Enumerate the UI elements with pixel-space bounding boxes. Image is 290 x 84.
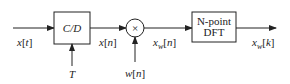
block-diagram: x[t] C/D T x[n] × w[n] xw[n] N-point DFT… <box>0 0 290 84</box>
label-xw-n: xw[n] <box>152 36 176 51</box>
multiply-icon: × <box>132 22 138 34</box>
label-x-n: x[n] <box>98 36 117 48</box>
label-x-t: x[t] <box>16 36 32 48</box>
cd-block-label: C/D <box>63 22 81 34</box>
label-w-n: w[n] <box>125 67 145 79</box>
label-xw-k: xw[k] <box>251 36 274 51</box>
dft-block-label-line2: DFT <box>204 26 225 38</box>
label-T: T <box>69 68 76 80</box>
